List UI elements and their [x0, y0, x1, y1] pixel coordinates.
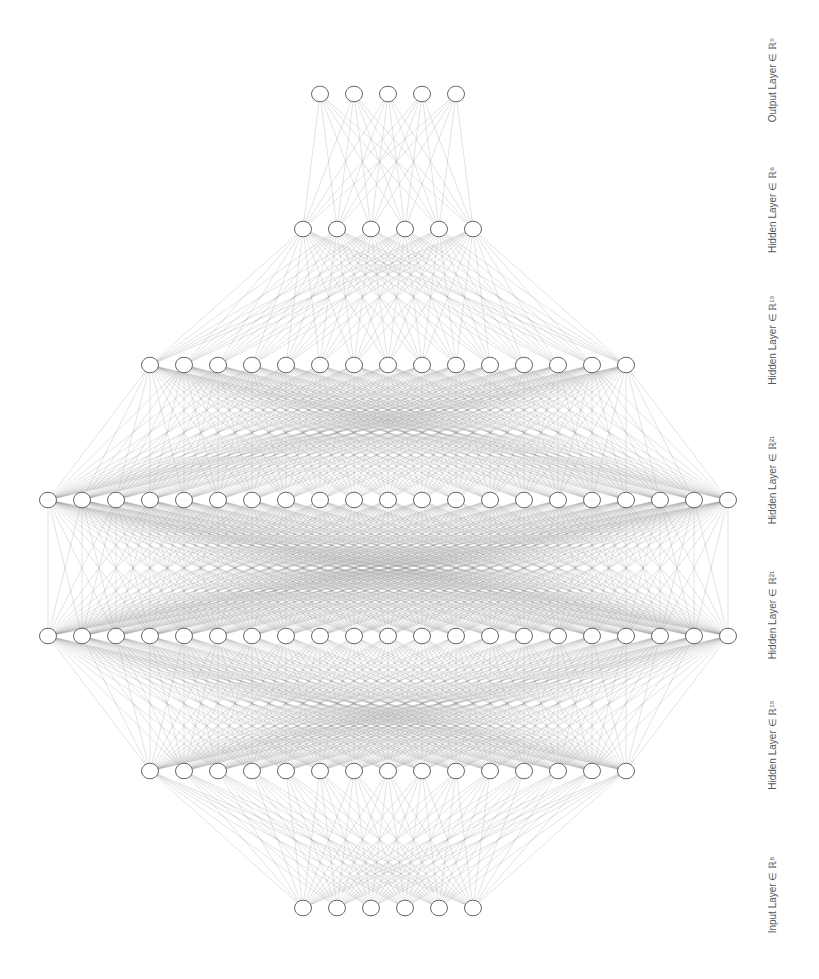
neuron-node [686, 492, 703, 508]
neuron-node [414, 492, 431, 508]
neuron-node [618, 492, 635, 508]
neuron-node [40, 628, 57, 644]
neuron-node [244, 628, 261, 644]
neuron-node [176, 492, 193, 508]
input-layer-label: Input Layer ∈ ℝ⁶ [767, 857, 778, 934]
neuron-node [482, 763, 499, 779]
neuron-node [482, 492, 499, 508]
neuron-node [278, 357, 295, 373]
neuron-node [346, 492, 363, 508]
neuron-node [516, 763, 533, 779]
neuron-node [278, 492, 295, 508]
neuron-node [108, 628, 125, 644]
neuron-node [414, 357, 431, 373]
neuron-node [720, 628, 737, 644]
neuron-node [363, 221, 380, 237]
neuron-node [584, 628, 601, 644]
neuron-node [380, 763, 397, 779]
hidden-layer-2-label: Hidden Layer ∈ ℝ²¹ [767, 571, 778, 660]
neuron-node [618, 763, 635, 779]
neuron-node [108, 492, 125, 508]
neuron-node [74, 492, 91, 508]
neuron-node [414, 763, 431, 779]
neuron-node [346, 357, 363, 373]
neuron-node [397, 900, 414, 916]
neuron-node [176, 763, 193, 779]
neuron-node [516, 357, 533, 373]
neuron-node [210, 357, 227, 373]
neuron-node [550, 357, 567, 373]
hidden-layer-1-label: Hidden Layer ∈ ℝ¹⁵ [767, 700, 778, 790]
neuron-node [142, 492, 159, 508]
hidden-layer-3-label: Hidden Layer ∈ ℝ²¹ [767, 436, 778, 525]
neuron-node [686, 628, 703, 644]
neuron-node [448, 628, 465, 644]
neuron-node [346, 628, 363, 644]
neuron-node [329, 900, 346, 916]
neurons [40, 86, 737, 916]
neuron-node [380, 492, 397, 508]
neuron-node [363, 900, 380, 916]
neuron-node [652, 628, 669, 644]
neuron-node [618, 628, 635, 644]
neuron-node [312, 628, 329, 644]
neuron-node [431, 221, 448, 237]
neuron-node [465, 221, 482, 237]
neuron-node [584, 763, 601, 779]
neuron-node [210, 763, 227, 779]
neuron-node [295, 221, 312, 237]
hidden-layer-1 [142, 763, 635, 779]
neuron-node [720, 492, 737, 508]
neuron-node [448, 357, 465, 373]
output-layer-label: Output Layer ∈ ℝ⁵ [767, 38, 778, 123]
neuron-node [278, 628, 295, 644]
neuron-node [176, 628, 193, 644]
neuron-node [312, 86, 329, 102]
neuron-node [244, 357, 261, 373]
neuron-node [652, 492, 669, 508]
hidden-layer-4-label: Hidden Layer ∈ ℝ¹⁵ [767, 295, 778, 385]
neuron-node [448, 763, 465, 779]
neuron-node [550, 492, 567, 508]
neuron-node [295, 900, 312, 916]
neuron-node [176, 357, 193, 373]
neuron-node [346, 86, 363, 102]
neuron-node [210, 628, 227, 644]
neuron-node [210, 492, 227, 508]
neuron-node [618, 357, 635, 373]
neuron-node [380, 628, 397, 644]
neuron-node [516, 628, 533, 644]
hidden-layer-5 [295, 221, 482, 237]
neuron-node [329, 221, 346, 237]
hidden-layer-3 [40, 492, 737, 508]
neuron-node [584, 492, 601, 508]
neuron-node [448, 86, 465, 102]
neuron-node [380, 86, 397, 102]
network-graph [0, 0, 819, 979]
neuron-node [244, 763, 261, 779]
neuron-node [465, 900, 482, 916]
neuron-node [142, 357, 159, 373]
neuron-node [380, 357, 397, 373]
neuron-node [312, 763, 329, 779]
neuron-node [550, 628, 567, 644]
neuron-node [142, 628, 159, 644]
neuron-node [414, 628, 431, 644]
neuron-node [74, 628, 91, 644]
neuron-node [142, 763, 159, 779]
hidden-layer-2 [40, 628, 737, 644]
neuron-node [397, 221, 414, 237]
neuron-node [312, 357, 329, 373]
output-layer [312, 86, 465, 102]
neuron-node [414, 86, 431, 102]
input-layer [295, 900, 482, 916]
neural-network-diagram: Input Layer ∈ ℝ⁶Hidden Layer ∈ ℝ¹⁵Hidden… [0, 0, 819, 979]
neuron-node [278, 763, 295, 779]
neuron-node [244, 492, 261, 508]
neuron-node [482, 357, 499, 373]
neuron-node [584, 357, 601, 373]
neuron-node [448, 492, 465, 508]
neuron-node [40, 492, 57, 508]
neuron-node [312, 492, 329, 508]
neuron-node [431, 900, 448, 916]
